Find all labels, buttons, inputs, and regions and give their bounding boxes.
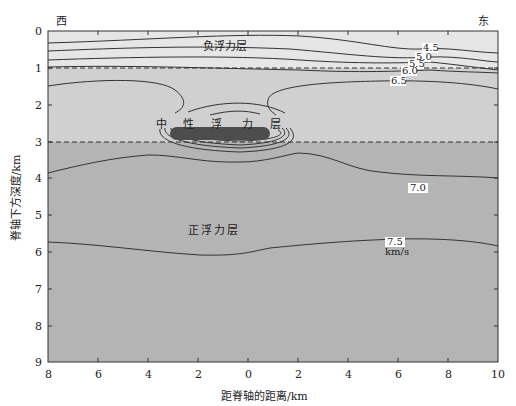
unit-label: km/s (385, 246, 409, 257)
west-label: 西 (56, 12, 67, 28)
neutral-char-3: 浮 (211, 115, 222, 131)
y-tick-3: 3 (35, 136, 42, 149)
x-tick-8: 8 (445, 368, 452, 381)
negative-layer-label: 负浮力层 (203, 37, 247, 53)
x-axis-title: 距脊轴的距离/km (221, 387, 308, 403)
y-tick-4: 4 (35, 172, 42, 185)
contour-label-6-5: 6.5 (391, 75, 407, 86)
neutral-char-4: 力 (242, 115, 253, 131)
y-tick-0: 0 (35, 25, 42, 38)
neutral-char-5: 层 (270, 115, 281, 131)
x-tick-2: 4 (145, 368, 152, 381)
neutral-char-2: 性 (183, 115, 194, 131)
positive-layer-label: 正浮力层 (188, 221, 240, 237)
y-tick-5: 5 (35, 209, 42, 222)
x-tick-4: 0 (245, 368, 252, 381)
east-label: 东 (478, 12, 489, 28)
x-tick-7: 6 (395, 368, 402, 381)
x-tick-1: 6 (95, 368, 102, 381)
y-tick-2: 2 (35, 99, 42, 112)
x-tick-5: 2 (295, 368, 302, 381)
y-tick-7: 7 (35, 283, 42, 296)
x-tick-9: 10 (491, 368, 505, 381)
x-tick-6: 4 (345, 368, 352, 381)
x-tick-0: 8 (45, 368, 52, 381)
y-tick-8: 8 (35, 320, 42, 333)
neutral-char-1: 中 (156, 115, 167, 131)
y-tick-9: 9 (35, 356, 42, 369)
y-tick-6: 6 (35, 246, 42, 259)
contour-plot (0, 0, 516, 406)
contour-label-7-0: 7.0 (410, 182, 426, 193)
y-axis-title: 脊轴下方深度/km (7, 143, 23, 253)
y-tick-1: 1 (35, 62, 42, 75)
x-tick-3: 2 (195, 368, 202, 381)
